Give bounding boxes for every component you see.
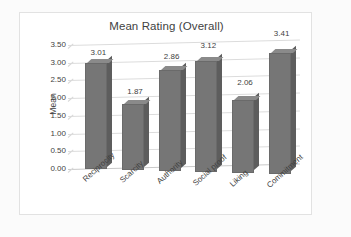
bar-front-face — [269, 53, 291, 174]
bar[interactable] — [159, 70, 181, 171]
y-axis-tick-label: 0.00 — [20, 164, 66, 173]
bar-value-label: 3.01 — [78, 48, 118, 57]
bar-value-label: 3.41 — [262, 29, 302, 38]
bar-value-label: 3.12 — [188, 41, 228, 50]
bar-value-label: 2.86 — [152, 52, 192, 61]
bar-side-face — [254, 93, 259, 170]
bar[interactable] — [85, 63, 107, 170]
bar-top-face — [271, 49, 297, 53]
y-axis-tick-label: 1.00 — [20, 129, 66, 138]
y-axis-tick-label: 2.00 — [20, 93, 66, 102]
bar-value-label: 1.87 — [115, 87, 155, 96]
bar-top-face — [234, 96, 260, 100]
y-axis-tick-label: 1.50 — [20, 111, 66, 120]
y-axis-tick-label: 3.00 — [20, 58, 66, 67]
bar[interactable] — [269, 53, 291, 174]
bar-top-face — [87, 59, 113, 63]
bar-front-face — [195, 61, 217, 172]
bar-side-face — [291, 46, 296, 171]
y-axis-tick-label: 3.50 — [20, 40, 66, 49]
bar-top-face — [161, 66, 187, 70]
bar-front-face — [85, 63, 107, 170]
bar[interactable] — [195, 61, 217, 172]
bar-top-face — [124, 100, 150, 104]
chart-container: Mean Rating (Overall) Mean 3.503.002.502… — [19, 12, 312, 215]
bar-value-label: 2.06 — [225, 78, 265, 87]
bar-side-face — [144, 97, 149, 167]
y-axis-tick-label: 0.50 — [20, 146, 66, 155]
x-axis-category-labels: ReciprocityScarcityAuthoritySocial proof… — [68, 173, 308, 225]
bar-front-face — [232, 100, 254, 173]
plot-area: 3.011.872.863.122.063.41 — [68, 45, 300, 169]
bar-side-face — [181, 63, 186, 169]
y-axis-tick-labels: 3.503.002.502.001.501.000.500.00 — [20, 45, 66, 169]
bar-front-face — [159, 70, 181, 171]
y-axis-tick-label: 2.50 — [20, 75, 66, 84]
bar[interactable] — [232, 100, 254, 173]
